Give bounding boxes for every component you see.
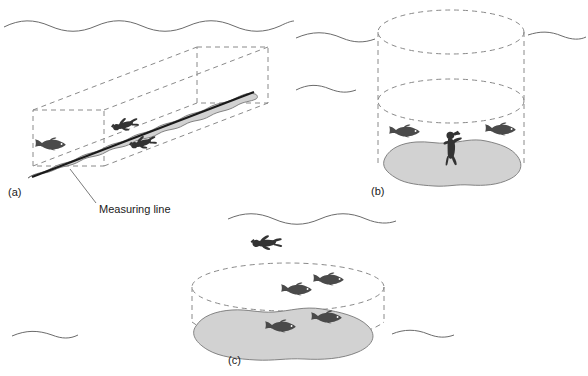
fish-a-1 <box>35 138 66 151</box>
water-surface-line-c <box>228 214 396 225</box>
cylinder-mid-ellipse-b <box>378 79 524 123</box>
fish-b-2 <box>485 123 516 136</box>
panel-label-c: (c) <box>228 354 241 366</box>
measuring-line <box>32 92 254 177</box>
panel-a: (a) Measuring line <box>4 21 294 215</box>
measuring-line-leader <box>70 169 96 203</box>
water-surface-line-a <box>4 21 294 32</box>
water-midline-c-right <box>392 330 454 337</box>
panel-label-b: (b) <box>371 185 384 197</box>
survey-methods-figure: (a) Measuring line (b) <box>0 0 588 376</box>
cylinder-top-ellipse-b <box>378 10 524 54</box>
cylinder-top-ellipse-c <box>192 263 384 311</box>
water-surface-line-b-right <box>528 32 586 39</box>
fish-c-2 <box>313 273 344 286</box>
measuring-line-label: Measuring line <box>99 203 171 215</box>
panel-c: (c) <box>12 214 454 366</box>
water-midline-b <box>296 85 356 92</box>
diver-a-1 <box>110 114 140 136</box>
panel-label-a: (a) <box>8 186 21 198</box>
panel-b: (b) <box>296 10 586 197</box>
water-surface-line-b-left <box>296 33 375 42</box>
fish-c-1 <box>281 283 312 296</box>
diver-c-1 <box>250 233 283 252</box>
water-midline-c-left <box>12 331 78 338</box>
substrate-patch-c <box>194 308 373 360</box>
fish-b-1 <box>389 125 420 138</box>
